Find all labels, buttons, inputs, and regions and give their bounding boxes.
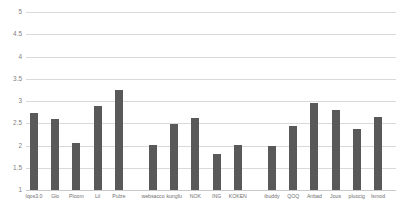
gridline — [26, 101, 396, 102]
y-axis-tick-label: 1 — [2, 186, 22, 193]
bar — [94, 106, 102, 190]
y-axis-tick-label: 4 — [2, 53, 22, 60]
bar — [213, 154, 221, 190]
gridline — [26, 57, 396, 58]
plot-area — [26, 10, 396, 192]
bar — [234, 145, 242, 190]
gridline — [26, 168, 396, 169]
y-axis-tick-label: 2 — [2, 142, 22, 149]
bar — [72, 143, 80, 190]
gridline — [26, 79, 396, 80]
bar — [30, 113, 38, 190]
y-axis-tick-label: 3 — [2, 97, 22, 104]
bar — [289, 126, 297, 190]
gridline — [26, 123, 396, 124]
x-axis-tick-label: Ismod — [357, 193, 399, 200]
gridline — [26, 190, 396, 191]
bar — [374, 117, 382, 190]
bar — [51, 119, 59, 190]
bar — [170, 124, 178, 190]
y-axis-tick-label: 4.5 — [2, 30, 22, 37]
bar — [268, 146, 276, 191]
gridline — [26, 12, 396, 13]
y-axis-tick-label: 3.5 — [2, 75, 22, 82]
y-axis-tick-label: 5 — [2, 8, 22, 15]
bar — [149, 145, 157, 190]
y-axis-tick-label: 1.5 — [2, 164, 22, 171]
bar-chart: 11.522.533.544.55 Iqos3.0GloPloomLilPulz… — [0, 0, 403, 212]
gridline — [26, 146, 396, 147]
bar — [115, 90, 123, 190]
bar — [353, 129, 361, 190]
bar — [310, 103, 318, 190]
bar — [332, 110, 340, 190]
gridline — [26, 34, 396, 35]
y-axis-tick-label: 2.5 — [2, 119, 22, 126]
bar — [191, 118, 199, 190]
